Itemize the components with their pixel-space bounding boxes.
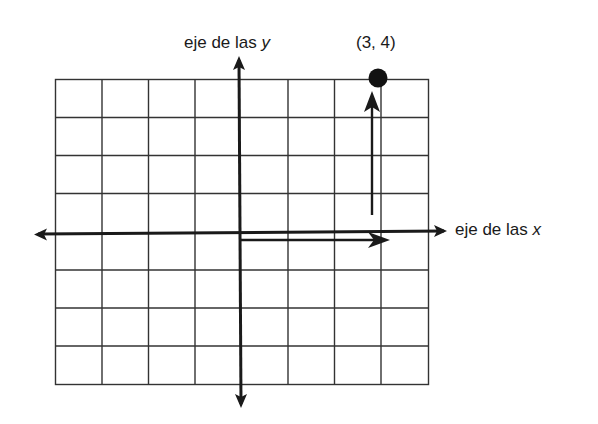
- vector-horizontal-component: [241, 232, 390, 248]
- coordinate-plane-diagram: eje de las y (3, 4) eje de las x: [0, 0, 598, 424]
- vector-vertical-component: [364, 91, 380, 215]
- x-axis-label-text: eje de las: [455, 220, 533, 239]
- y-axis-label: eje de las y: [184, 34, 270, 51]
- y-axis-label-variable: y: [262, 33, 271, 52]
- x-axis-label-variable: x: [533, 220, 542, 239]
- point-label: (3, 4): [356, 34, 396, 51]
- point-marker: [369, 69, 388, 88]
- x-axis-label: eje de las x: [455, 221, 541, 238]
- y-axis-label-text: eje de las: [184, 33, 262, 52]
- coordinate-grid-svg: [0, 0, 598, 424]
